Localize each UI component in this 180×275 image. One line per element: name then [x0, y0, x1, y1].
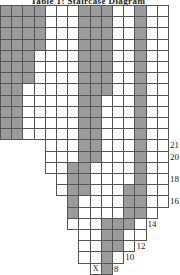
row-label: 12	[136, 241, 145, 251]
row-label: 16	[170, 196, 179, 206]
grid-cell	[134, 229, 146, 241]
row-label: 20	[170, 152, 179, 162]
row-label: 10	[125, 252, 134, 262]
grid-cell	[123, 240, 135, 252]
row-label: 14	[148, 219, 157, 229]
grid-cell	[112, 251, 124, 263]
row-label: 8	[114, 264, 119, 274]
grid-cell	[101, 263, 113, 275]
row-label: 18	[170, 174, 179, 184]
grid-cell	[146, 207, 158, 219]
row-label: 21	[170, 140, 179, 150]
grid-cell	[157, 195, 169, 207]
